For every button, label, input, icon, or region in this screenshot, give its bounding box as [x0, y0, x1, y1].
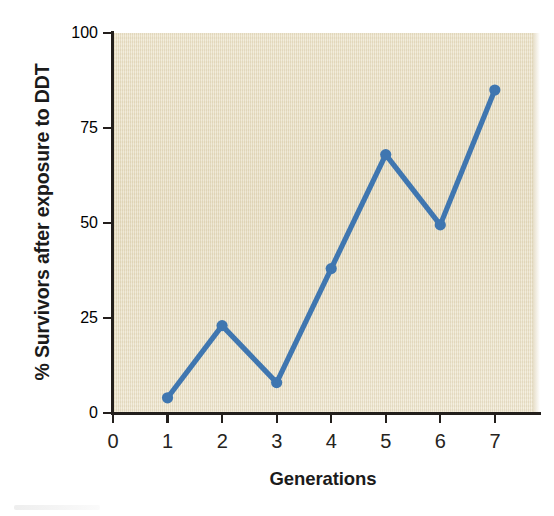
- x-tick-label: 1: [151, 428, 185, 454]
- scan-edge-artifact: [533, 33, 540, 413]
- data-series-svg: [113, 33, 533, 413]
- y-tick-mark: [103, 222, 112, 224]
- data-point: [162, 392, 173, 403]
- data-point: [271, 377, 282, 388]
- chart-figure: % Survivors after exposure to DDT 025507…: [0, 0, 554, 516]
- x-tick-mark: [112, 414, 114, 423]
- y-tick-label: 0: [50, 401, 98, 425]
- x-tick-mark: [385, 414, 387, 423]
- data-markers: [162, 84, 500, 403]
- x-tick-label: 7: [478, 428, 512, 454]
- data-point: [435, 219, 446, 230]
- x-tick-mark: [494, 414, 496, 423]
- x-tick-mark: [276, 414, 278, 423]
- data-point: [380, 149, 391, 160]
- y-tick-label: 75: [50, 116, 98, 140]
- x-tick-label: 5: [369, 428, 403, 454]
- x-tick-label: 2: [205, 428, 239, 454]
- x-tick-label: 4: [314, 428, 348, 454]
- x-axis-title: Generations: [113, 468, 533, 490]
- x-tick-mark: [330, 414, 332, 423]
- data-point: [326, 263, 337, 274]
- x-tick-label: 0: [96, 428, 130, 454]
- x-tick-label: 3: [260, 428, 294, 454]
- data-point: [489, 84, 500, 95]
- data-line: [168, 90, 495, 398]
- data-point: [216, 320, 227, 331]
- y-tick-mark: [103, 127, 112, 129]
- x-tick-mark: [439, 414, 441, 423]
- x-tick-mark: [166, 414, 168, 423]
- y-tick-label: 100: [50, 21, 98, 45]
- x-axis-line: [111, 412, 541, 415]
- y-tick-mark: [103, 32, 112, 34]
- y-tick-label: 25: [50, 306, 98, 330]
- x-tick-label: 6: [423, 428, 457, 454]
- y-tick-mark: [103, 317, 112, 319]
- x-tick-mark: [221, 414, 223, 423]
- y-tick-label: 50: [50, 211, 98, 235]
- scan-smudge-artifact: [14, 505, 100, 510]
- plot-area: [113, 33, 533, 413]
- y-tick-mark: [103, 412, 112, 414]
